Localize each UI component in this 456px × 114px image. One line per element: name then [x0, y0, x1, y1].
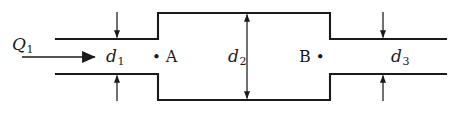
diameter-2-symbol: d: [228, 46, 239, 66]
point-a-label: A: [166, 49, 178, 65]
diameter-3-symbol: d: [391, 46, 402, 66]
pipe-expansion-diagram: Q1 d1 d2 d3 • A B •: [0, 0, 456, 114]
point-b-marker: B •: [299, 49, 325, 65]
diameter-1-subscript: 1: [117, 55, 124, 68]
diameter-1-label: d1: [106, 48, 124, 65]
diameter-2-subscript: 2: [239, 55, 246, 68]
diameter-3-subscript: 3: [402, 55, 409, 68]
flow-rate-subscript: 1: [26, 43, 33, 56]
pipe-lower-wall: [56, 74, 446, 100]
pipe-upper-wall: [56, 13, 446, 39]
diameter-1-symbol: d: [106, 46, 117, 66]
point-a-marker: • A: [152, 49, 177, 65]
point-a-dot-icon: •: [152, 50, 161, 65]
diameter-2-label: d2: [228, 48, 246, 65]
point-b-dot-icon: •: [316, 50, 325, 65]
diameter-3-label: d3: [391, 48, 409, 65]
flow-rate-label: Q1: [12, 36, 33, 53]
flow-rate-symbol: Q: [12, 34, 26, 54]
point-b-label: B: [299, 49, 311, 65]
